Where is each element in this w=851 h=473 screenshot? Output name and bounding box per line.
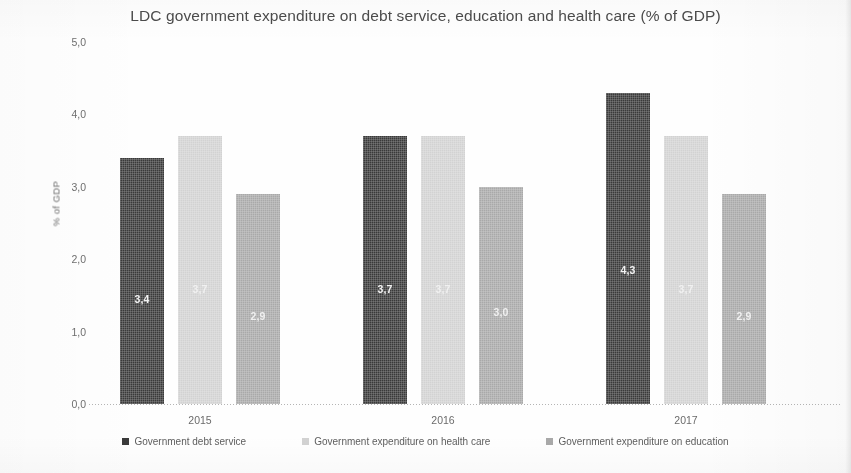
scan-edge-shadow [845,0,851,473]
bar-value-label: 2,9 [722,310,766,322]
bar-debt-2015: 3,4 [120,158,164,404]
y-axis-tick-label: 0,0 [71,398,86,410]
y-axis-tick-label: 5,0 [71,36,86,48]
bar-value-label: 4,3 [606,264,650,276]
bar-value-label: 3,7 [363,283,407,295]
x-axis-label-2015: 2015 [140,414,260,426]
y-axis-tick-label: 2,0 [71,253,86,265]
legend-label: Government expenditure on health care [314,436,490,447]
legend-item-health[interactable]: Government expenditure on health care [302,436,490,447]
bar-education-2017: 2,9 [722,194,766,404]
gridline [95,114,835,115]
bar-value-label: 3,7 [421,283,465,295]
legend-swatch-icon [546,438,553,445]
bar-debt-2017: 4,3 [606,93,650,404]
bar-education-2015: 2,9 [236,194,280,404]
gridline [95,42,835,43]
x-axis-label-2016: 2016 [383,414,503,426]
legend-swatch-icon [302,438,309,445]
bar-value-label: 3,4 [120,293,164,305]
y-axis-title: % of GDP [51,164,62,244]
legend-item-debt[interactable]: Government debt service [122,436,246,447]
x-axis-label-2017: 2017 [626,414,746,426]
bar-health-2015: 3,7 [178,136,222,404]
legend-item-education[interactable]: Government expenditure on education [546,436,728,447]
bar-education-2016: 3,0 [479,187,523,404]
y-axis-tick-label: 3,0 [71,181,86,193]
bar-health-2017: 3,7 [664,136,708,404]
bar-value-label: 3,7 [178,283,222,295]
legend-swatch-icon [122,438,129,445]
legend-label: Government expenditure on education [558,436,728,447]
bar-value-label: 2,9 [236,310,280,322]
chart-title: LDC government expenditure on debt servi… [0,7,851,25]
bar-health-2016: 3,7 [421,136,465,404]
legend-label: Government debt service [134,436,246,447]
chart-figure: LDC government expenditure on debt servi… [0,0,851,473]
chart-legend: Government debt serviceGovernment expend… [0,436,851,447]
bar-debt-2016: 3,7 [363,136,407,404]
bar-value-label: 3,0 [479,306,523,318]
plot-area: 5,04,03,02,01,00,0 3,43,72,93,73,73,04,3… [95,42,835,404]
axis-baseline [89,404,841,405]
bar-value-label: 3,7 [664,283,708,295]
y-axis-tick-label: 1,0 [71,326,86,338]
y-axis-tick-label: 4,0 [71,108,86,120]
